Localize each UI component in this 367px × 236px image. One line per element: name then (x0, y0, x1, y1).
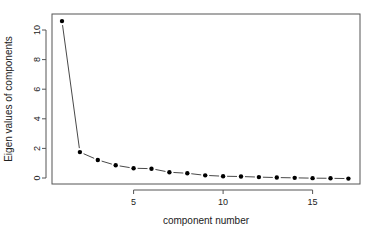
data-point (310, 176, 314, 180)
data-point (78, 150, 82, 154)
x-tick-label: 15 (308, 197, 318, 207)
y-axis: 0246810 (32, 25, 46, 181)
y-tick-label: 6 (32, 87, 42, 92)
x-axis: 51015 (131, 190, 318, 207)
data-point (275, 175, 279, 179)
y-axis-label: Eigen values of components (3, 36, 14, 162)
y-tick-label: 10 (32, 25, 42, 35)
data-point (328, 176, 332, 180)
data-point (257, 175, 261, 179)
data-point (185, 171, 189, 175)
data-point (346, 176, 350, 180)
x-tick-label: 5 (131, 197, 136, 207)
y-tick-label: 2 (32, 146, 42, 151)
data-point (114, 163, 118, 167)
data-point (221, 174, 225, 178)
data-point (203, 173, 207, 177)
data-point (293, 176, 297, 180)
data-point (167, 170, 171, 174)
data-point (131, 166, 135, 170)
data-point (60, 19, 64, 23)
x-tick-label: 10 (218, 197, 228, 207)
data-series (60, 19, 351, 181)
y-tick-label: 8 (32, 57, 42, 62)
y-tick-label: 0 (32, 175, 42, 180)
data-point (149, 166, 153, 170)
y-tick-label: 4 (32, 116, 42, 121)
data-point (239, 174, 243, 178)
scree-plot: 0246810 51015 component number Eigen val… (0, 0, 367, 236)
x-axis-label: component number (163, 215, 250, 226)
data-point (96, 158, 100, 162)
